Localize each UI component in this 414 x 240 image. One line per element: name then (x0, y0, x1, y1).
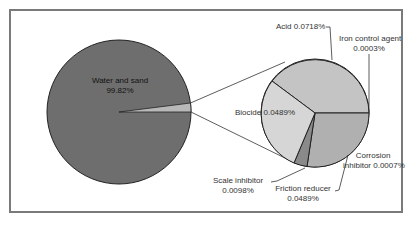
label-water-value: 99.82% (82, 86, 158, 96)
label-scale-value: 0.0098% (208, 186, 268, 196)
label-scale-name: Scale inhibitor (208, 176, 268, 186)
label-friction-reducer: Friction reducer 0.0489% (268, 184, 338, 204)
label-corrosion-name: Corrosion (343, 151, 403, 161)
leader-scale (271, 168, 305, 182)
label-scale-inhibitor: Scale inhibitor 0.0098% (208, 176, 268, 196)
label-friction-name: Friction reducer (268, 184, 338, 194)
label-iron-control-agent: Iron control agent 0.0003% (339, 34, 399, 54)
label-corrosion-inhibitor: Corrosion inhibitor 0.0007% (343, 151, 403, 171)
label-friction-value: 0.0489% (268, 194, 338, 204)
label-iron-value: 0.0003% (339, 44, 399, 54)
label-corrosion-value: inhibitor 0.0007% (343, 161, 403, 171)
label-water-and-sand: Water and sand 99.82% (82, 76, 158, 96)
label-iron-name: Iron control agent (339, 34, 399, 44)
leader-acid (326, 27, 332, 60)
label-acid: Acid 0.0718% (276, 22, 325, 32)
label-biocide: Biocide 0.0489% (235, 108, 295, 118)
label-water-name: Water and sand (82, 76, 158, 86)
